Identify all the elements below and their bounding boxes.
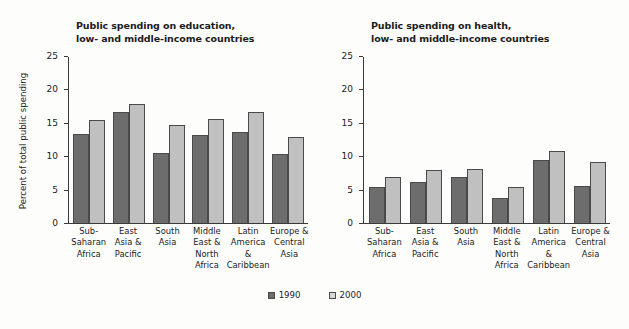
bar-group <box>487 57 528 223</box>
bar-1990 <box>73 134 89 223</box>
chart-title-education: Public spending on education,low- and mi… <box>76 20 254 45</box>
y-axis-label-education: Percent of total public spending <box>16 57 30 224</box>
title-line-1: low- and middle-income countries <box>371 33 549 46</box>
y-tick-mark: 15 <box>64 123 68 124</box>
y-tick-mark: 15 <box>359 123 363 124</box>
bar-1990 <box>232 132 248 223</box>
y-tick-label: 20 <box>47 84 58 94</box>
category-label-line: America <box>227 237 270 248</box>
category-label-line: Saharan <box>69 237 108 248</box>
category-label-line: East & <box>187 237 226 248</box>
legend-label: 2000 <box>340 290 362 300</box>
category-label-line: Europe & <box>570 226 611 237</box>
y-tick-label: 25 <box>342 51 353 61</box>
title-line-0: Public spending on education, <box>76 20 254 33</box>
category-label-line: South <box>446 226 487 237</box>
legend-swatch-icon <box>329 292 336 299</box>
category-label-line: Sub- <box>364 226 405 237</box>
category-label: SouthAsia <box>446 226 487 272</box>
category-label-line: & <box>527 249 570 260</box>
legend-item-1990: 1990 <box>268 290 301 300</box>
y-tick-label: 0 <box>52 218 58 228</box>
category-label-line: East <box>108 226 147 237</box>
category-label-line: Africa <box>69 249 108 260</box>
bar-group <box>364 57 405 223</box>
title-line-1: low- and middle-income countries <box>76 33 254 46</box>
category-label-line: & <box>227 249 270 260</box>
chart-panel-education: Public spending on education,low- and mi… <box>0 0 318 290</box>
bar-1990 <box>451 177 467 223</box>
y-tick-label: 10 <box>47 151 58 161</box>
chart-panel-health: Public spending on health,low- and middl… <box>300 0 629 290</box>
chart-legend: 19902000 <box>0 290 629 300</box>
category-label-line: Pacific <box>108 249 147 260</box>
category-label-line: East & <box>486 237 527 248</box>
bar-2000 <box>89 120 105 223</box>
y-tick-mark: 20 <box>359 89 363 90</box>
category-label: Europe &CentralAsia <box>570 226 611 272</box>
category-label-line: Africa <box>486 260 527 271</box>
category-label: Sub-SaharanAfrica <box>364 226 405 272</box>
bar-2000 <box>248 112 264 223</box>
bar-1990 <box>113 112 129 223</box>
y-tick-label: 10 <box>342 151 353 161</box>
y-tick-mark: 0 <box>64 223 68 224</box>
figure-root: Public spending on education,low- and mi… <box>0 0 629 329</box>
bar-2000 <box>208 119 224 223</box>
category-label-line: Africa <box>187 260 226 271</box>
legend-swatch-icon <box>268 292 275 299</box>
legend-item-2000: 2000 <box>329 290 362 300</box>
x-axis-categories-education: Sub-SaharanAfricaEastAsia &PacificSouthA… <box>69 226 309 272</box>
x-axis-categories-health: Sub-SaharanAfricaEastAsia &PacificSouthA… <box>364 226 611 272</box>
bar-2000 <box>508 187 524 223</box>
category-label-line: Latin <box>227 226 270 237</box>
category-label-line: Africa <box>364 249 405 260</box>
bar-group <box>69 57 109 223</box>
category-label-line: Asia & <box>108 237 147 248</box>
category-label: Sub-SaharanAfrica <box>69 226 108 272</box>
bar-groups-health <box>364 57 610 223</box>
bar-1990 <box>369 187 385 223</box>
bar-2000 <box>549 151 565 223</box>
bar-1990 <box>492 198 508 223</box>
category-label-line: North <box>486 249 527 260</box>
category-label-line: Caribbean <box>527 260 570 271</box>
category-label: MiddleEast &NorthAfrica <box>486 226 527 272</box>
bar-group <box>109 57 149 223</box>
category-label-line: Asia <box>570 249 611 260</box>
category-label-line: Caribbean <box>227 260 270 271</box>
y-tick-mark: 5 <box>359 190 363 191</box>
y-tick-label: 15 <box>47 118 58 128</box>
category-label-line: Saharan <box>364 237 405 248</box>
category-label-line: Asia <box>446 237 487 248</box>
y-tick-mark: 10 <box>64 156 68 157</box>
bar-2000 <box>426 170 442 223</box>
bar-group <box>188 57 228 223</box>
bar-1990 <box>533 160 549 223</box>
bar-group <box>528 57 569 223</box>
category-label: EastAsia &Pacific <box>108 226 147 272</box>
title-line-0: Public spending on health, <box>371 20 549 33</box>
bar-group <box>149 57 189 223</box>
bar-1990 <box>153 153 169 223</box>
y-tick-label: 25 <box>47 51 58 61</box>
y-tick-label: 20 <box>342 84 353 94</box>
bar-group <box>228 57 268 223</box>
category-label-line: Central <box>570 237 611 248</box>
chart-title-health: Public spending on health,low- and middl… <box>371 20 549 45</box>
category-label-line: America <box>527 237 570 248</box>
y-tick-label: 5 <box>347 185 353 195</box>
y-tick-mark: 25 <box>64 56 68 57</box>
bar-1990 <box>574 186 590 223</box>
category-label: LatinAmerica&Caribbean <box>527 226 570 272</box>
y-tick-mark: 20 <box>64 89 68 90</box>
category-label: LatinAmerica&Caribbean <box>227 226 270 272</box>
category-label-line: Pacific <box>405 249 446 260</box>
plot-area-education: 0510152025 <box>68 57 308 224</box>
bar-1990 <box>192 135 208 223</box>
y-tick-label: 15 <box>342 118 353 128</box>
category-label-line: Asia <box>148 237 187 248</box>
category-label-line: Latin <box>527 226 570 237</box>
y-tick-mark: 0 <box>359 223 363 224</box>
category-label-line: Middle <box>486 226 527 237</box>
